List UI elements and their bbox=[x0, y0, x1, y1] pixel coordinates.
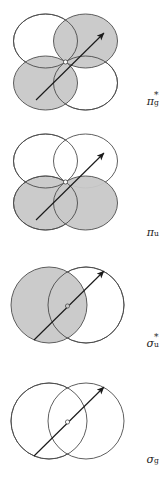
label-sigma-u-star: σ*u bbox=[146, 336, 159, 349]
panel-sigma-u-star-graphic bbox=[0, 252, 163, 358]
label-sigma-u-star-base: σ bbox=[146, 337, 154, 350]
center-node-dot bbox=[65, 304, 69, 308]
panel-pi-g-star: π*g bbox=[0, 8, 163, 120]
label-sigma-g: σg bbox=[146, 452, 159, 465]
label-sigma-u-star-sub: u bbox=[154, 341, 159, 349]
label-sigma-g-base: σ bbox=[146, 453, 154, 466]
center-node-dot bbox=[65, 420, 69, 424]
lobe-right bbox=[48, 383, 124, 459]
label-pi-u: πu bbox=[147, 225, 159, 238]
orbital-figure: π*g πu bbox=[0, 0, 163, 480]
panel-sigma-g: σg bbox=[0, 368, 163, 474]
label-sigma-g-sub: g bbox=[154, 457, 159, 465]
label-sigma-g-affixes: g bbox=[154, 452, 159, 463]
label-pi-g-star-sub: g bbox=[154, 99, 159, 107]
label-pi-g-star-affixes: *g bbox=[154, 94, 159, 105]
label-sigma-u-star-affixes: *u bbox=[154, 336, 159, 347]
lobe-left bbox=[11, 267, 87, 343]
label-pi-u-base: π bbox=[147, 226, 154, 239]
center-node-dot bbox=[63, 180, 67, 184]
panel-pi-u-graphic bbox=[0, 128, 163, 240]
panel-pi-g-star-graphic bbox=[0, 8, 163, 120]
label-pi-u-affixes: u bbox=[154, 225, 159, 236]
label-pi-g-star-base: π bbox=[147, 95, 154, 108]
panel-sigma-u-star: σ*u bbox=[0, 252, 163, 358]
lobe-bottom-left bbox=[14, 56, 78, 110]
panel-pi-u: πu bbox=[0, 128, 163, 240]
panel-sigma-g-graphic bbox=[0, 368, 163, 474]
label-pi-u-sub: u bbox=[154, 230, 159, 238]
label-pi-g-star: π*g bbox=[147, 94, 159, 107]
center-node-dot bbox=[63, 60, 67, 64]
